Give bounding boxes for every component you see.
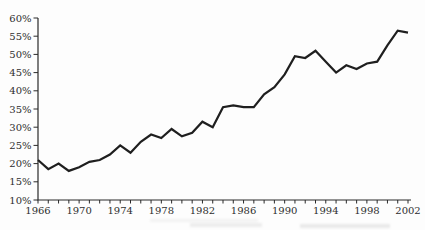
x-tick-label: 1978 [149,205,174,216]
x-tick-label: 1990 [272,205,297,216]
data-line [38,31,408,171]
y-axis-ticks: 60%55%50%45%40%35%30%25%20%15%10% [9,13,38,206]
y-tick-label: 20% [9,158,31,169]
y-tick-label: 50% [9,49,31,60]
x-tick-label: 1982 [190,205,215,216]
data-series [38,31,408,171]
chart-area: 60%55%50%45%40%35%30%25%20%15%10% 196619… [0,0,425,230]
x-tick-label: 1994 [313,205,338,216]
x-tick-label: 1998 [354,205,379,216]
line-chart: 60%55%50%45%40%35%30%25%20%15%10% 196619… [0,0,425,230]
y-tick-label: 25% [9,140,31,151]
axes [38,18,411,200]
y-tick-label: 15% [9,176,31,187]
y-tick-label: 30% [9,122,31,133]
axis-spine [38,18,411,200]
y-tick-label: 55% [9,31,31,42]
y-tick-label: 35% [9,104,31,115]
x-axis-ticks: 1966197019741978198219861990199419982002 [25,200,420,216]
x-tick-label: 1986 [231,205,256,216]
x-tick-label: 2002 [395,205,420,216]
y-tick-label: 40% [9,85,31,96]
y-tick-label: 10% [9,195,31,206]
y-tick-label: 45% [9,67,31,78]
x-tick-label: 1966 [25,205,50,216]
x-tick-label: 1974 [107,205,132,216]
x-tick-label: 1970 [66,205,91,216]
y-tick-label: 60% [9,13,31,24]
